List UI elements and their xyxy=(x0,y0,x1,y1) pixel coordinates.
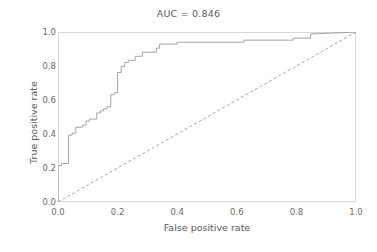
plot-area xyxy=(58,32,356,202)
chart-title: AUC = 0.846 xyxy=(0,8,377,19)
y-tick-label: 0.4 xyxy=(42,129,56,139)
y-tick-label: 0.6 xyxy=(42,95,56,105)
x-tick-label: 0.4 xyxy=(170,207,184,217)
x-tick-label: 1.0 xyxy=(349,207,363,217)
chance-reference-line xyxy=(58,32,356,202)
y-tick-label: 0.8 xyxy=(42,61,56,71)
plot-svg xyxy=(58,32,356,202)
y-axis-label: True positive rate xyxy=(28,38,39,208)
roc-chart-figure: AUC = 0.846 False positive rate True pos… xyxy=(0,0,377,252)
x-axis-label: False positive rate xyxy=(58,222,356,233)
x-tick-label: 0.8 xyxy=(290,207,304,217)
x-tick-label: 0.2 xyxy=(111,207,125,217)
y-tick-label: 0.0 xyxy=(42,197,56,207)
y-tick-label: 1.0 xyxy=(42,27,56,37)
y-tick-label: 0.2 xyxy=(42,163,56,173)
x-tick-label: 0.6 xyxy=(230,207,244,217)
x-tick-label: 0.0 xyxy=(51,207,65,217)
